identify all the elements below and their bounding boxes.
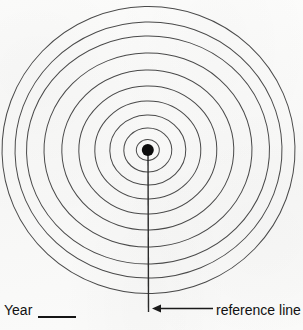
tree-ring-diagram [0,0,303,330]
worksheet-page: Year reference line [0,0,303,330]
year-label: Year [4,303,32,317]
reference-line [148,150,149,312]
arrow-head-icon [152,305,161,313]
reference-line-label: reference line [216,303,301,317]
year-blank-field[interactable] [38,316,76,318]
pith-center-dot [142,144,154,156]
annotation-arrow [152,305,213,313]
